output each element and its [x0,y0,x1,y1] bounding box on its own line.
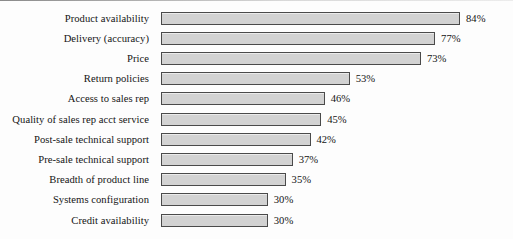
category-label: Quality of sales rep acct service [0,114,155,126]
bar-row: Price73% [0,49,513,69]
bar [161,52,421,65]
bar [161,32,435,45]
bar-value-label: 42% [317,134,336,146]
category-label: Price [0,53,155,65]
category-label: Return policies [0,73,155,85]
bar-track: 73% [155,49,513,69]
top-divider-rule [0,0,513,1]
bar-row: Delivery (accuracy)77% [0,29,513,49]
bar [161,113,321,126]
bar [161,173,286,186]
bar-value-label: 73% [427,53,446,65]
bar-track: 46% [155,89,513,109]
bar-row: Access to sales rep46% [0,89,513,109]
bar [161,133,311,146]
bar [161,193,268,206]
horizontal-bar-chart: Product availability84%Delivery (accurac… [0,0,513,239]
category-label: Product availability [0,13,155,25]
bar-row: Systems configuration30% [0,190,513,210]
bar-value-label: 30% [274,215,293,227]
bar-track: 84% [155,9,513,29]
bar-row: Credit availability30% [0,211,513,231]
bar [161,72,350,85]
bar [161,214,268,227]
bar-value-label: 45% [327,114,346,126]
bar-row: Pre-sale technical support37% [0,150,513,170]
category-label: Access to sales rep [0,93,155,105]
bar-value-label: 37% [299,154,318,166]
bar-track: 35% [155,170,513,190]
bar-value-label: 84% [466,13,485,25]
bar-track: 45% [155,110,513,130]
bar-row: Quality of sales rep acct service45% [0,110,513,130]
bar-row: Breadth of product line35% [0,170,513,190]
bar-value-label: 46% [331,93,350,105]
bar-row: Post-sale technical support42% [0,130,513,150]
category-label: Pre-sale technical support [0,154,155,166]
bar [161,92,325,105]
bar-track: 53% [155,69,513,89]
category-label: Credit availability [0,215,155,227]
bar [161,153,293,166]
category-label: Post-sale technical support [0,134,155,146]
bar-value-label: 77% [441,33,460,45]
bar-value-label: 53% [356,73,375,85]
category-label: Systems configuration [0,194,155,206]
bar-track: 30% [155,211,513,231]
bar-row: Return policies53% [0,69,513,89]
bar-track: 77% [155,29,513,49]
bar-track: 42% [155,130,513,150]
bar [161,12,460,25]
category-label: Breadth of product line [0,174,155,186]
bar-value-label: 35% [292,174,311,186]
category-label: Delivery (accuracy) [0,33,155,45]
bar-value-label: 30% [274,194,293,206]
bar-track: 37% [155,150,513,170]
chart-plot-area: Product availability84%Delivery (accurac… [0,8,513,232]
bar-row: Product availability84% [0,9,513,29]
bar-track: 30% [155,190,513,210]
